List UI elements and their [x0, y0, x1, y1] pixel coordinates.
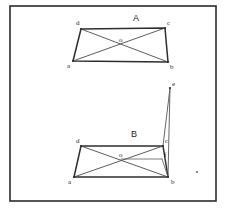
figure-a-caption: A: [133, 13, 139, 23]
figure-a-vertex-c: [164, 27, 166, 29]
figure-b-caption: B: [131, 129, 137, 139]
figure-a-label-d: d: [76, 19, 80, 27]
stray-ink-mark: [196, 171, 198, 173]
geometry-diagram-svg: a b c d o A a b c d o e f B: [0, 0, 226, 211]
figure-b-vertex-b: [167, 176, 169, 178]
figure-b-vertex-e: [169, 87, 171, 89]
figure-b-vertex-c: [162, 145, 164, 147]
diagram-border-frame: [10, 6, 216, 201]
geometry-figure-container: a b c d o A a b c d o e f B: [0, 0, 226, 211]
figure-b-label-o: o: [119, 151, 123, 159]
figure-a-vertex-b: [167, 61, 169, 63]
figure-a-label-o: o: [119, 36, 123, 44]
figure-b-vertex-d: [80, 145, 82, 147]
figure-b-label-b: b: [171, 178, 175, 186]
figure-b-label-c: c: [165, 137, 168, 145]
figure-b-vertex-a: [73, 176, 75, 178]
figure-b-label-a: a: [68, 178, 72, 186]
figure-a-label-b: b: [170, 63, 174, 71]
figure-a-group: a b c d o A: [67, 13, 174, 71]
figure-a-diagonal-bd: [81, 29, 168, 62]
figure-b-label-f: f: [164, 151, 167, 159]
figure-a-vertex-d: [80, 28, 82, 30]
figure-b-label-e: e: [172, 80, 175, 88]
figure-b-label-d: d: [76, 137, 80, 145]
figure-a-label-c: c: [167, 19, 170, 27]
figure-a-vertex-a: [72, 60, 74, 62]
figure-a-label-a: a: [67, 62, 71, 70]
figure-b-group: a b c d o e f B: [68, 80, 175, 186]
figure-b-diagonal-bd: [81, 146, 168, 177]
